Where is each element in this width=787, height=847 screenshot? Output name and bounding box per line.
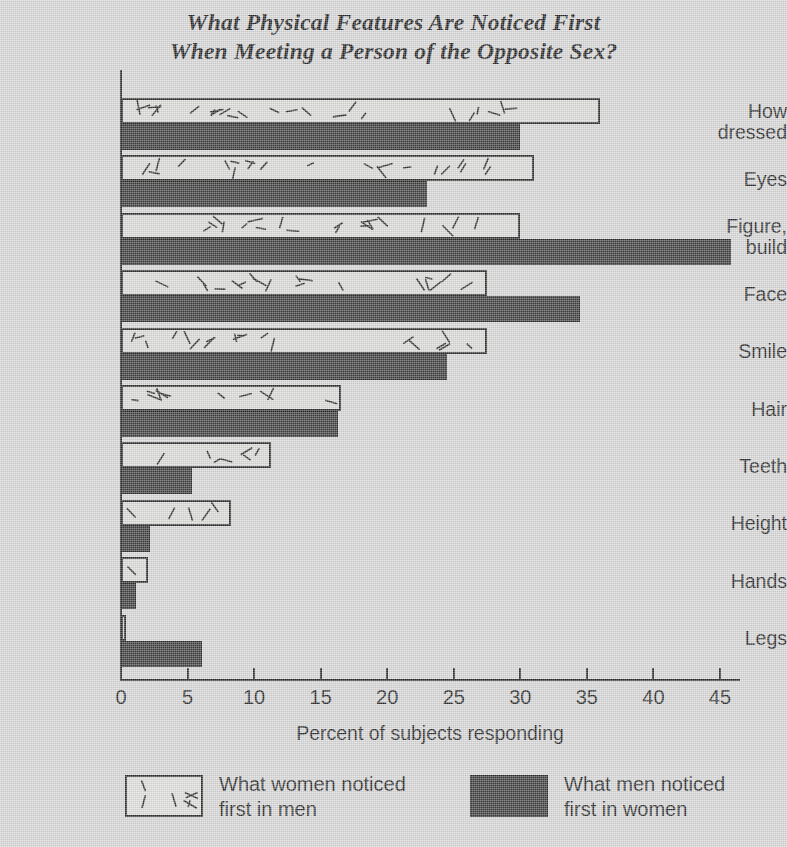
x-tick-15 <box>320 668 322 680</box>
x-tick-45 <box>719 668 721 680</box>
bar-women-hair <box>121 385 341 411</box>
bar-women-face <box>121 270 487 296</box>
bar-men-hands <box>121 583 136 609</box>
bar-women-figure-build <box>121 213 520 239</box>
x-tick-label-15: 15 <box>301 686 341 709</box>
x-tick-label-25: 25 <box>434 686 474 709</box>
hatch-pattern <box>123 272 485 294</box>
solid-dark-swatch <box>470 775 548 817</box>
chart-title-line-2: When Meeting a Person of the Opposite Se… <box>0 37 787 66</box>
legend-label: What men noticed first in women <box>564 772 725 822</box>
x-tick-40 <box>652 668 654 680</box>
bar-women-legs <box>121 615 126 641</box>
x-axis-line <box>120 679 740 681</box>
hatch-pattern <box>123 559 146 581</box>
bar-women-how-dressed <box>121 98 600 124</box>
chart-title: What Physical Features Are Noticed First… <box>0 8 787 66</box>
hatch-pattern <box>123 215 518 237</box>
x-tick-0 <box>120 668 122 680</box>
bar-men-figure-build <box>121 239 731 265</box>
category-label-eyes: Eyes <box>675 169 787 190</box>
hatch-pattern <box>123 157 532 179</box>
x-tick-label-20: 20 <box>367 686 407 709</box>
category-label-how-dressed: How dressed <box>675 101 787 143</box>
x-tick-30 <box>519 668 521 680</box>
x-tick-label-35: 35 <box>567 686 607 709</box>
bar-women-smile <box>121 328 487 354</box>
chart-legend: What women noticed first in menWhat men … <box>0 772 787 847</box>
x-tick-10 <box>253 668 255 680</box>
x-tick-label-10: 10 <box>234 686 274 709</box>
bar-women-eyes <box>121 155 534 181</box>
hatch-pattern <box>123 444 269 466</box>
category-label-teeth: Teeth <box>675 456 787 477</box>
category-label-hands: Hands <box>675 571 787 592</box>
bar-men-teeth <box>121 468 192 494</box>
hatch-pattern <box>123 502 229 524</box>
legend-item-men: What men noticed first in women <box>470 772 725 822</box>
legend-label: What women noticed first in men <box>219 772 406 822</box>
bar-men-legs <box>121 641 202 667</box>
hatch-pattern <box>123 387 339 409</box>
x-tick-5 <box>187 668 189 680</box>
bar-men-eyes <box>121 181 427 207</box>
bar-women-height <box>121 500 231 526</box>
bar-men-hair <box>121 411 338 437</box>
bar-men-height <box>121 526 150 552</box>
x-tick-20 <box>386 668 388 680</box>
hatch-pattern <box>123 330 485 352</box>
category-label-hair: Hair <box>675 399 787 420</box>
category-label-legs: Legs <box>675 628 787 649</box>
x-tick-label-40: 40 <box>633 686 673 709</box>
hatched-swatch <box>125 775 203 817</box>
x-axis-title: Percent of subjects responding <box>120 722 740 745</box>
hatch-pattern <box>127 777 201 815</box>
x-tick-25 <box>453 668 455 680</box>
bar-men-how-dressed <box>121 124 520 150</box>
x-tick-label-5: 5 <box>168 686 208 709</box>
x-tick-label-45: 45 <box>700 686 740 709</box>
x-tick-label-0: 0 <box>101 686 141 709</box>
x-tick-label-30: 30 <box>500 686 540 709</box>
chart-title-line-1: What Physical Features Are Noticed First <box>0 8 787 37</box>
category-label-face: Face <box>675 284 787 305</box>
x-tick-35 <box>586 668 588 680</box>
bar-men-smile <box>121 354 447 380</box>
category-label-height: Height <box>675 513 787 534</box>
bar-men-face <box>121 296 580 322</box>
chart-plot-area: 051015202530354045 How dressedEyesFigure… <box>0 0 787 760</box>
category-label-smile: Smile <box>675 341 787 362</box>
hatch-pattern <box>123 100 598 122</box>
bar-women-teeth <box>121 442 271 468</box>
legend-item-women: What women noticed first in men <box>125 772 406 822</box>
bar-women-hands <box>121 557 148 583</box>
